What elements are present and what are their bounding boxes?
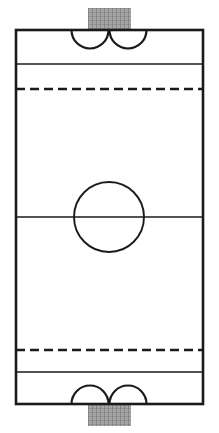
bottom-goal — [88, 404, 131, 426]
field-diagram-svg — [0, 0, 219, 433]
top-goal — [88, 8, 131, 30]
field-diagram — [0, 0, 219, 433]
